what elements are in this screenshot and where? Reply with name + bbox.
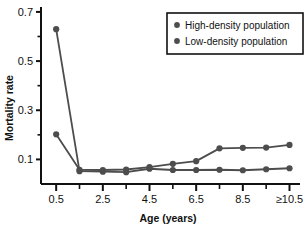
legend-label-1: Low-density population bbox=[185, 36, 287, 47]
chart-container: 0.10.30.50.7 0.52.54.56.58.5≥10.5 High-d… bbox=[0, 0, 307, 227]
series-1-point-7 bbox=[216, 145, 222, 151]
y-tick-label-3: 0.7 bbox=[18, 6, 33, 18]
series-1-point-9 bbox=[263, 145, 269, 151]
series-1-point-10 bbox=[286, 142, 292, 148]
series-0-point-8 bbox=[240, 167, 246, 173]
series-1-point-2 bbox=[100, 167, 106, 173]
x-tick-label-0: 0.5 bbox=[49, 193, 64, 205]
series-0-point-7 bbox=[216, 167, 222, 173]
x-tick-label-2: 4.5 bbox=[142, 193, 157, 205]
series-0-point-9 bbox=[263, 166, 269, 172]
series-1-point-0 bbox=[53, 131, 59, 137]
series-1-point-5 bbox=[170, 161, 176, 167]
series-1-point-3 bbox=[123, 166, 129, 172]
series-1-point-1 bbox=[76, 167, 82, 173]
series-1-point-6 bbox=[193, 158, 199, 164]
mortality-rate-line-chart: 0.10.30.50.7 0.52.54.56.58.5≥10.5 High-d… bbox=[0, 0, 307, 227]
legend-marker-1 bbox=[174, 38, 180, 44]
chart-legend: High-density populationLow-density popul… bbox=[167, 13, 303, 54]
series-0-point-10 bbox=[286, 165, 292, 171]
x-tick-label-5: ≥10.5 bbox=[276, 193, 303, 205]
y-tick-label-1: 0.3 bbox=[18, 104, 33, 116]
x-tick-label-3: 6.5 bbox=[189, 193, 204, 205]
x-tick-label-1: 2.5 bbox=[95, 193, 110, 205]
series-1-point-4 bbox=[146, 164, 152, 170]
series-0-point-0 bbox=[53, 26, 59, 32]
legend-label-0: High-density population bbox=[185, 20, 290, 31]
y-tick-label-0: 0.1 bbox=[18, 153, 33, 165]
legend-marker-0 bbox=[174, 22, 180, 28]
series-0-point-6 bbox=[193, 167, 199, 173]
series-1-point-8 bbox=[240, 145, 246, 151]
x-axis-title: Age (years) bbox=[139, 212, 196, 224]
y-tick-label-2: 0.5 bbox=[18, 55, 33, 67]
series-0-point-5 bbox=[170, 167, 176, 173]
y-axis-title: Mortality rate bbox=[3, 75, 15, 141]
x-tick-label-4: 8.5 bbox=[235, 193, 250, 205]
